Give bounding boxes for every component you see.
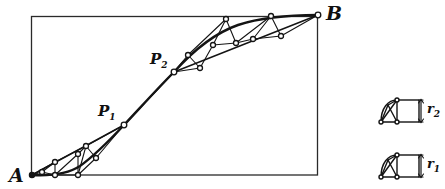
node-n9 bbox=[198, 66, 203, 71]
node-n7 bbox=[94, 156, 99, 161]
inset-r2 bbox=[379, 98, 424, 124]
label-r2-base: r bbox=[427, 101, 434, 116]
node-n10 bbox=[211, 43, 216, 48]
node-n4 bbox=[76, 173, 81, 178]
label-r2-subscript: 2 bbox=[434, 109, 440, 119]
diagram-svg bbox=[0, 0, 445, 189]
node-n5 bbox=[76, 152, 81, 157]
label-P2-subscript: 2 bbox=[161, 60, 167, 70]
node-n13 bbox=[251, 37, 256, 42]
node-P2 bbox=[171, 69, 177, 75]
label-P1-base: P bbox=[98, 102, 109, 120]
label-r1: r1 bbox=[427, 157, 440, 174]
inset-r1 bbox=[379, 153, 424, 179]
node-n12 bbox=[234, 41, 239, 46]
node-n14 bbox=[269, 14, 274, 19]
label-P2-base: P bbox=[150, 50, 161, 68]
node-n2 bbox=[53, 160, 58, 165]
node-P1 bbox=[121, 122, 127, 128]
node-n6 bbox=[84, 144, 89, 149]
node-n11 bbox=[224, 17, 229, 22]
label-r2: r2 bbox=[427, 102, 440, 119]
label-r1-subscript: 1 bbox=[434, 164, 440, 174]
label-P1: P1 bbox=[98, 104, 116, 122]
node-n3 bbox=[53, 173, 58, 178]
node-n8 bbox=[186, 53, 191, 58]
figure-canvas: A B P1 P2 r2 r1 bbox=[0, 0, 445, 189]
label-P2: P2 bbox=[150, 52, 168, 70]
chord-polyline bbox=[32, 15, 318, 175]
node-B bbox=[315, 12, 321, 18]
label-A: A bbox=[9, 166, 24, 185]
label-P1-subscript: 1 bbox=[109, 112, 115, 122]
node-n15 bbox=[279, 34, 284, 39]
node-A bbox=[29, 172, 34, 177]
label-B: B bbox=[326, 4, 342, 23]
label-r1-base: r bbox=[427, 156, 434, 171]
node-n1 bbox=[40, 170, 45, 175]
